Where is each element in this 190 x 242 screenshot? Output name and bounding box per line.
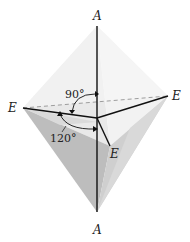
- angle-label-120: 120°: [50, 132, 77, 145]
- label-equatorial-left: E: [7, 101, 17, 115]
- label-equatorial-front: E: [109, 147, 119, 161]
- angle-label-90: 90°: [65, 88, 85, 101]
- label-axial-top: A: [92, 9, 102, 23]
- label-axial-bottom: A: [92, 223, 102, 237]
- trigonal-bipyramid-diagram: A A E E E 90° 120°: [0, 0, 190, 242]
- label-equatorial-right: E: [171, 89, 181, 103]
